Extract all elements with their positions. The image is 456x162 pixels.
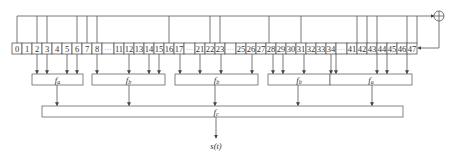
cell-label: 30 (287, 44, 296, 54)
register-cell: 11 (114, 43, 124, 54)
cell-label: 2 (35, 44, 39, 54)
register-cell: 21 (195, 43, 205, 54)
register-cell: 32 (306, 43, 316, 54)
register-cell: 33 (316, 43, 326, 54)
register-cell: 13 (134, 43, 144, 54)
register-cell: 0 (12, 43, 22, 54)
register-cell: 12 (124, 43, 134, 54)
cell-label: 31 (297, 44, 306, 54)
cell-label: 12 (125, 44, 134, 54)
register-cell: 28 (266, 43, 276, 54)
register-cell: 47 (407, 43, 417, 54)
register-cell: 23 (215, 43, 225, 54)
keystream-output: s(t) (210, 117, 222, 151)
register-cell: 25 (236, 43, 246, 54)
cell-label: 45 (388, 44, 397, 54)
cell-label: 14 (145, 44, 154, 54)
cell-label: 47 (408, 44, 417, 54)
register-cell: 44 (377, 43, 387, 54)
cell-label: 6 (75, 44, 79, 54)
cell-label: 27 (257, 44, 266, 54)
register-cell: 29 (276, 43, 286, 54)
register-cell: 17 (174, 43, 184, 54)
register-cell: 3 (42, 43, 52, 54)
filter-fa2: fa (330, 54, 412, 106)
register-cell: 30 (286, 43, 296, 54)
output-label: s(t) (210, 141, 222, 151)
combiner-box (42, 106, 403, 117)
filter-fb3: fb (268, 54, 331, 106)
cell-label: 16 (165, 44, 174, 54)
cell-label: 0 (15, 44, 19, 54)
cell-label: 11 (115, 44, 123, 54)
cell-label: ··· (338, 46, 345, 54)
register-cell: 4 (52, 43, 62, 54)
register-ellipsis: ··· (102, 43, 114, 54)
cell-label: 43 (368, 44, 377, 54)
cell-label: 23 (216, 44, 225, 54)
register-cell: 41 (347, 43, 357, 54)
xor-icon (434, 11, 444, 21)
filter-fb1: fb (92, 54, 165, 106)
combiner-function: fc (42, 106, 403, 117)
register-ellipsis: ··· (225, 43, 236, 54)
cell-label: 26 (247, 44, 256, 54)
shift-register: 012345678···11121314151617···212223···25… (12, 43, 417, 54)
register-cell: 46 (397, 43, 407, 54)
register-cell: 27 (256, 43, 266, 54)
feedback-network (17, 11, 444, 48)
register-cell: 2 (32, 43, 42, 54)
register-cell: 16 (164, 43, 174, 54)
cell-label: 44 (378, 44, 387, 54)
cell-label: 1 (25, 44, 29, 54)
register-cell: 1 (22, 43, 32, 54)
cell-label: 7 (85, 44, 89, 54)
cell-label: 29 (277, 44, 286, 54)
filter-functions: fafbfbfbfa (32, 54, 412, 106)
cell-label: 28 (267, 44, 276, 54)
register-ellipsis: ··· (184, 43, 195, 54)
cell-label: 41 (348, 44, 357, 54)
register-ellipsis: ··· (336, 43, 347, 54)
cell-label: 15 (155, 44, 164, 54)
cell-label: 13 (135, 44, 144, 54)
feedback-return-line (418, 21, 439, 48)
register-cell: 26 (246, 43, 256, 54)
cell-label: 33 (317, 44, 326, 54)
cell-label: 22 (206, 44, 215, 54)
filter-fb2: fb (175, 54, 258, 106)
register-cell: 22 (205, 43, 215, 54)
register-cell: 45 (387, 43, 397, 54)
register-cell: 34 (326, 43, 336, 54)
cell-label: ··· (227, 46, 234, 54)
cell-label: 42 (358, 44, 367, 54)
register-cell: 42 (357, 43, 367, 54)
filter-fa1: fa (32, 54, 83, 106)
register-cell: 14 (144, 43, 154, 54)
cell-label: 34 (327, 44, 336, 54)
filter-generator-diagram: 012345678···11121314151617···212223···25… (0, 0, 456, 162)
cell-label: ··· (105, 46, 112, 54)
cell-label: 17 (175, 44, 184, 54)
register-cell: 8 (92, 43, 102, 54)
cell-label: ··· (186, 46, 193, 54)
register-cell: 7 (82, 43, 92, 54)
cell-label: 8 (95, 44, 99, 54)
register-cell: 31 (296, 43, 306, 54)
register-cell: 5 (62, 43, 72, 54)
register-cell: 15 (154, 43, 164, 54)
cell-label: 3 (45, 44, 49, 54)
cell-label: 32 (307, 44, 316, 54)
cell-label: 46 (398, 44, 407, 54)
cell-label: 25 (237, 44, 246, 54)
register-cell: 6 (72, 43, 82, 54)
cell-label: 5 (65, 44, 69, 54)
cell-label: 21 (196, 44, 205, 54)
register-cell: 43 (367, 43, 377, 54)
